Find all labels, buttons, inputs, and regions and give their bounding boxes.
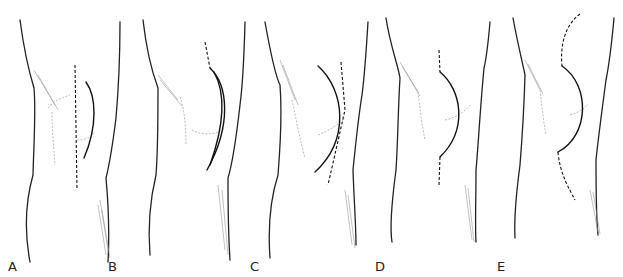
shading	[280, 60, 355, 248]
leg-outline-right	[476, 22, 490, 242]
panel-e-drawing	[513, 14, 614, 238]
shading	[400, 62, 474, 242]
incision-curved	[84, 82, 94, 158]
leg-outline-left	[143, 20, 158, 255]
incision-midline-dashed	[75, 65, 77, 190]
panel-label-e: E	[497, 259, 505, 274]
patella-contour	[418, 92, 470, 140]
leg-outline-right	[353, 22, 368, 245]
leg-outline-left	[265, 22, 281, 258]
leg-outline-right	[228, 22, 245, 260]
leg-outline-left	[386, 18, 400, 242]
incision-dashed-bottom	[439, 157, 440, 185]
incision-dashed-bottom	[558, 152, 575, 200]
panel-c-drawing	[265, 22, 368, 258]
panel-d-drawing	[386, 18, 490, 242]
incision-dashed-top	[205, 42, 210, 68]
panel-label-d: D	[375, 259, 385, 274]
incision-curved	[558, 66, 583, 152]
incision-curved	[315, 66, 340, 172]
incision-curved	[207, 68, 225, 170]
panel-label-c: C	[250, 259, 259, 274]
leg-outline-right	[596, 18, 614, 235]
shading	[525, 60, 600, 234]
incision-dashed-top	[439, 50, 440, 72]
panel-label-b: B	[108, 259, 117, 274]
patella-contour	[48, 95, 95, 165]
shading	[34, 70, 110, 258]
patella-contour	[292, 100, 345, 158]
panel-b-drawing	[143, 20, 245, 260]
leg-outline-left	[20, 20, 35, 262]
leg-outline-left	[513, 18, 525, 238]
incision-curved	[440, 72, 459, 157]
panel-label-a: A	[8, 259, 17, 274]
panel-a-drawing	[20, 20, 120, 262]
incision-dashed-top	[562, 14, 580, 66]
shading	[158, 75, 228, 255]
leg-outline-right	[106, 22, 120, 262]
knee-incision-figure	[0, 0, 623, 277]
